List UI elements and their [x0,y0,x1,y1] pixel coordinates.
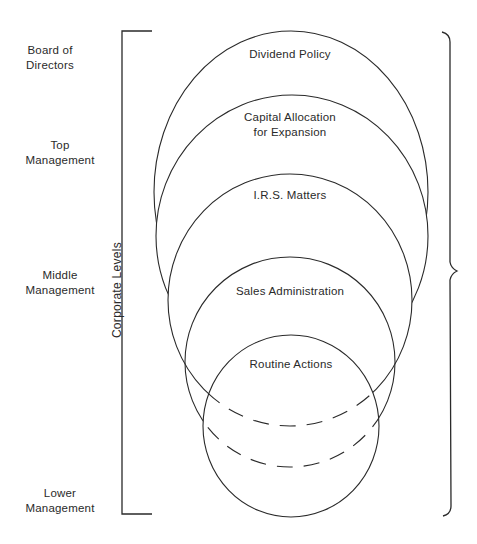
label-routine-actions: Routine Actions [250,357,333,372]
label-capital-allocation: Capital Allocation for Expansion [244,110,336,140]
left-bracket [122,31,152,514]
label-line2: for Expansion [244,125,336,140]
label-line1: Routine Actions [250,357,333,372]
label-irs-matters: I.R.S. Matters [253,188,326,203]
label-line1: Sales Administration [236,284,344,299]
label-line1: I.R.S. Matters [253,188,326,203]
label-sales-administration: Sales Administration [236,284,344,299]
label-dividend-policy: Dividend Policy [249,47,331,62]
label-line1: Capital Allocation [244,110,336,125]
right-curly-brace [442,32,457,516]
decision-ellipses-diagram [0,0,477,544]
label-line1: Dividend Policy [249,47,331,62]
